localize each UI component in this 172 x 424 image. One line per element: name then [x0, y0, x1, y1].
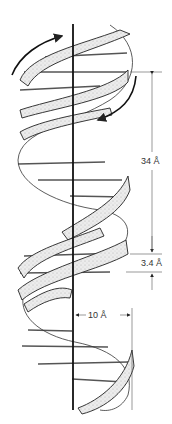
rise-label: 3.4 Å	[141, 258, 162, 268]
dna-helix-diagram: 34 Å 3.4 Å 10 Å	[0, 0, 172, 424]
radius-label: 10 Å	[88, 310, 107, 320]
pitch-label: 34 Å	[141, 156, 160, 166]
